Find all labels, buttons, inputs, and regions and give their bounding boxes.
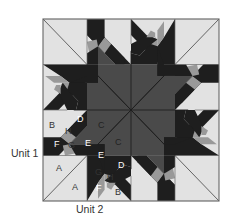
piece-label-u1-C: C <box>98 120 105 130</box>
piece-label-u2-C: C <box>115 137 122 147</box>
piece-label-u2-H: H <box>107 172 114 182</box>
piece-label-u1-B: B <box>49 120 55 130</box>
piece-label-u2-G: G <box>95 167 102 177</box>
piece-label-u2-D: D <box>118 160 125 170</box>
piece-label-u1-D: D <box>77 114 84 124</box>
piece-label-u1-H: H <box>65 126 72 136</box>
piece-label-u1-A: A <box>56 163 62 173</box>
piece-label-u1-G: G <box>68 140 75 150</box>
piece-label-u2-B: B <box>115 187 121 197</box>
piece-label-u1-F: F <box>54 139 60 149</box>
piece-label-u2-F: F <box>96 183 102 193</box>
unit-1-label: Unit 1 <box>11 147 38 159</box>
piece-label-u2-A: A <box>72 182 78 192</box>
quilt-block-diagram: B D H C F G E A C E D G H F B A <box>0 0 237 223</box>
piece-label-u2-E: E <box>98 150 104 160</box>
unit-2-label: Unit 2 <box>76 203 103 215</box>
piece-label-u1-E: E <box>85 138 91 148</box>
